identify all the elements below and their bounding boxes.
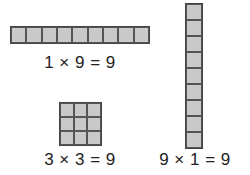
label-1x9: 1 × 9 = 9 — [44, 53, 116, 73]
array-cell — [186, 52, 202, 68]
array-cell — [11, 27, 26, 43]
array-cell — [103, 27, 118, 43]
array-cell — [186, 100, 202, 116]
array-cell — [87, 103, 101, 117]
array-cell — [87, 117, 101, 131]
array-1x9 — [10, 26, 150, 44]
array-cell — [88, 27, 103, 43]
array-cell — [186, 4, 202, 20]
array-cell — [186, 20, 202, 36]
array-3x3 — [59, 102, 102, 146]
array-cell — [26, 27, 41, 43]
array-cell — [60, 117, 74, 131]
array-cell — [87, 131, 101, 145]
array-cell — [118, 27, 133, 43]
array-cell — [74, 131, 88, 145]
array-cell — [57, 27, 72, 43]
label-9x1: 9 × 1 = 9 — [159, 150, 231, 170]
array-cell — [186, 68, 202, 84]
array-cell — [186, 36, 202, 52]
array-cell — [186, 132, 202, 148]
array-cell — [186, 84, 202, 100]
array-cell — [60, 131, 74, 145]
array-cell — [74, 117, 88, 131]
label-3x3: 3 × 3 = 9 — [44, 150, 116, 170]
array-cell — [186, 116, 202, 132]
array-cell — [74, 103, 88, 117]
array-cell — [134, 27, 149, 43]
array-cell — [60, 103, 74, 117]
array-cell — [42, 27, 57, 43]
array-cell — [72, 27, 87, 43]
array-9x1 — [185, 3, 203, 149]
